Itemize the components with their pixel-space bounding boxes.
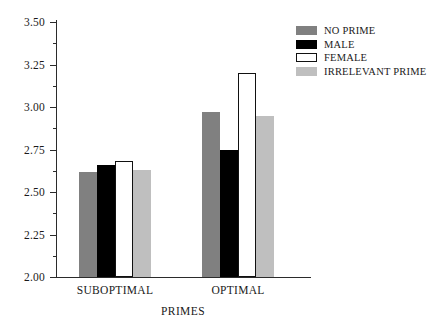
y-tick-label: 3.50	[24, 16, 45, 28]
y-tick-minor	[53, 43, 57, 44]
legend-swatch-noprime	[296, 26, 317, 35]
y-tick-label: 3.25	[24, 59, 45, 71]
y-tick-major: 3.50	[50, 22, 57, 23]
bar-irrelevant-optimal	[256, 116, 274, 278]
y-tick-label: 2.25	[24, 229, 45, 241]
y-tick-minor	[53, 256, 57, 257]
bar-chart: 3.503.253.002.752.502.252.00 SUBOPTIMALO…	[0, 0, 445, 329]
legend-label: MALE	[324, 39, 355, 50]
y-tick-major: 3.25	[50, 65, 57, 66]
legend-item: NO PRIME	[296, 24, 442, 38]
y-tick-major: 2.75	[50, 150, 57, 151]
y-tick-major: 2.50	[50, 192, 57, 193]
y-tick-label: 2.75	[24, 144, 45, 156]
legend-swatch-male	[296, 40, 317, 49]
y-tick-label: 3.00	[24, 101, 45, 113]
y-tick-label: 2.00	[24, 271, 45, 283]
y-tick-label: 2.50	[24, 186, 45, 198]
x-group-label-suboptimal: SUBOPTIMAL	[77, 284, 153, 296]
bar-male-optimal	[220, 150, 238, 278]
legend-swatch-female	[296, 53, 317, 62]
bar-male-suboptimal	[97, 165, 115, 277]
x-group-label-optimal: OPTIMAL	[211, 284, 264, 296]
legend-item: IRRELEVANT PRIME	[296, 65, 442, 79]
y-tick-major: 2.25	[50, 235, 57, 236]
bar-noprime-optimal	[202, 112, 220, 277]
y-tick-minor	[53, 128, 57, 129]
chart-legend: NO PRIMEMALEFEMALEIRRELEVANT PRIME	[296, 24, 442, 78]
legend-item: FEMALE	[296, 51, 442, 65]
bar-female-suboptimal	[115, 161, 133, 277]
bar-noprime-suboptimal	[79, 172, 97, 277]
legend-swatch-irrelevant	[296, 67, 317, 76]
plot-area: 3.503.253.002.752.502.252.00	[57, 22, 310, 277]
y-tick-minor	[53, 86, 57, 87]
legend-label: NO PRIME	[324, 25, 375, 36]
legend-label: IRRELEVANT PRIME	[324, 66, 426, 77]
y-tick-major: 3.00	[50, 107, 57, 108]
y-tick-minor	[53, 213, 57, 214]
bar-female-optimal	[238, 73, 256, 277]
y-tick-major: 2.00	[50, 277, 57, 278]
legend-item: MALE	[296, 38, 442, 52]
legend-label: FEMALE	[324, 52, 367, 63]
x-axis-title: PRIMES	[161, 305, 205, 317]
y-tick-minor	[53, 171, 57, 172]
x-axis-line	[56, 277, 311, 278]
bar-irrelevant-suboptimal	[133, 170, 151, 277]
